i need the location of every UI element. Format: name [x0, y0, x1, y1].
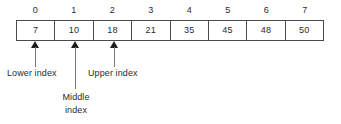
- array-index-label: 5: [209, 2, 248, 18]
- array-cell: 45: [209, 21, 247, 40]
- middle-index-label-line2: index: [55, 105, 97, 116]
- array-cell: 48: [247, 21, 285, 40]
- array-index-row: 0 1 2 3 4 5 6 7: [16, 2, 324, 18]
- array-cell: 21: [132, 21, 170, 40]
- array-index-label: 6: [247, 2, 286, 18]
- middle-index-arrow-icon: [71, 41, 80, 89]
- array-index-label: 1: [55, 2, 94, 18]
- array-index-label: 4: [170, 2, 209, 18]
- arrow-stem: [75, 47, 76, 89]
- figure-canvas: 0 1 2 3 4 5 6 7 7 10 18 21 35 45 48 50 L…: [0, 0, 341, 124]
- lower-index-arrow-icon: [31, 41, 40, 67]
- middle-index-label-line1: Middle: [55, 92, 97, 103]
- upper-index-arrow-icon: [110, 41, 119, 67]
- array-index-label: 7: [286, 2, 325, 18]
- array-cell: 35: [171, 21, 209, 40]
- array-index-label: 0: [16, 2, 55, 18]
- array-cell: 10: [55, 21, 93, 40]
- lower-index-label: Lower index: [7, 68, 67, 79]
- array-index-label: 3: [132, 2, 171, 18]
- array-index-label: 2: [93, 2, 132, 18]
- array-cell: 50: [286, 21, 323, 40]
- array-cell: 18: [94, 21, 132, 40]
- array-cell: 7: [17, 21, 55, 40]
- arrow-stem: [35, 47, 36, 67]
- arrow-stem: [114, 47, 115, 67]
- upper-index-label: Upper index: [88, 68, 150, 79]
- array-container: 7 10 18 21 35 45 48 50: [16, 20, 324, 41]
